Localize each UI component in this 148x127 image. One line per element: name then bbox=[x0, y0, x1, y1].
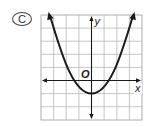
curve-arrow-right-icon bbox=[130, 12, 136, 20]
origin-label: O bbox=[81, 68, 90, 80]
x-axis-label: x bbox=[134, 82, 141, 94]
curve-arrow-left-icon bbox=[47, 12, 53, 20]
parabola-graph: y x O bbox=[0, 0, 148, 127]
